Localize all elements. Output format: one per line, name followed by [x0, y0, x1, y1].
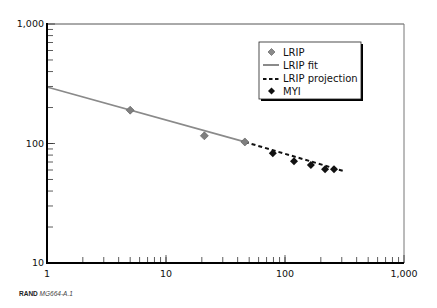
myi-point	[290, 157, 298, 165]
lrip-fit-line	[47, 87, 245, 142]
lrip-point	[126, 106, 134, 114]
chart: 1101001,000101001,000 LRIP LRIP fit LRIP…	[0, 0, 437, 308]
myi-point	[330, 165, 338, 173]
y-tick-label: 1,000	[17, 18, 44, 29]
legend-label: MYI	[283, 86, 301, 97]
source-note: RAND MG664-A.1	[19, 290, 73, 297]
source-id: MG664-A.1	[40, 290, 73, 297]
lrip-point	[200, 132, 208, 140]
x-tick-label: 1,000	[390, 268, 417, 279]
y-tick-label: 100	[26, 138, 44, 149]
x-tick-label: 10	[160, 268, 172, 279]
legend: LRIP LRIP fit LRIP projection MYI	[259, 42, 363, 101]
y-tick-label: 10	[32, 257, 44, 268]
legend-label: LRIP	[283, 47, 305, 58]
source-org: RAND	[19, 290, 38, 297]
lrip-projection-line	[245, 142, 343, 171]
legend-label: LRIP fit	[283, 60, 318, 71]
x-tick-label: 1	[44, 268, 50, 279]
lrip-point	[241, 138, 249, 146]
legend-label: LRIP projection	[283, 73, 358, 84]
x-tick-label: 100	[276, 268, 294, 279]
